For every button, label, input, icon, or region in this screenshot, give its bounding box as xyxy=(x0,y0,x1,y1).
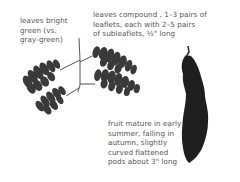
compound-leaf-illustration xyxy=(19,38,142,118)
seed-pod-illustration xyxy=(182,46,208,163)
botanical-illustration xyxy=(0,0,240,182)
